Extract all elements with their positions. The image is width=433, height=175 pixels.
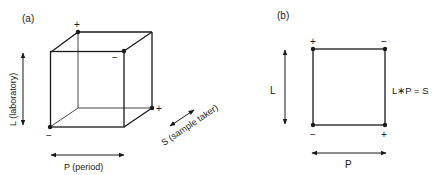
cube-vertex-dots bbox=[48, 30, 154, 129]
vertex-dot bbox=[383, 123, 387, 127]
sign-back-bottom-right: + bbox=[156, 103, 162, 114]
sign-bottom-left: − bbox=[310, 129, 316, 140]
sign-back-top-left: + bbox=[74, 19, 80, 30]
vertex-dot bbox=[122, 49, 126, 53]
sign-top-left: + bbox=[310, 36, 316, 47]
sign-bottom-right: + bbox=[381, 129, 387, 140]
axis-p-label: P (period) bbox=[64, 162, 103, 172]
cube-bottom-left-depth-edge bbox=[50, 108, 78, 127]
vertex-dot bbox=[311, 123, 315, 127]
sign-front-top-right: − bbox=[112, 52, 118, 63]
axis-l-label-b: L bbox=[270, 85, 276, 96]
vertex-dot bbox=[76, 30, 80, 34]
panel-b-label: (b) bbox=[277, 10, 289, 21]
square bbox=[313, 49, 385, 125]
panel-a-label: (a) bbox=[22, 13, 34, 24]
cube-top-right-depth-edge bbox=[124, 32, 152, 51]
panel-b: (b) + − − + L P L∗P = S bbox=[270, 10, 429, 170]
axis-p-label-b: P bbox=[345, 159, 352, 170]
square-vertex-dots bbox=[311, 47, 387, 127]
axis-l-label: L (laboratory) bbox=[8, 73, 18, 126]
vertex-dot bbox=[383, 47, 387, 51]
equation-label: L∗P = S bbox=[392, 85, 429, 96]
vertex-dot bbox=[150, 106, 154, 110]
vertex-dot bbox=[48, 125, 52, 129]
vertex-dot bbox=[311, 47, 315, 51]
sign-top-right: − bbox=[381, 36, 387, 47]
sign-front-bottom-left: − bbox=[46, 130, 52, 141]
diagram-canvas: (a) + − + − L (laboratory) P (period bbox=[0, 0, 433, 175]
cube-bottom-right-depth-edge bbox=[124, 108, 152, 127]
cube-top-left-depth-edge bbox=[51, 32, 78, 52]
cube bbox=[50, 32, 152, 127]
axis-s-label: S (sample taker) bbox=[160, 102, 220, 147]
panel-a: (a) + − + − L (laboratory) P (period bbox=[8, 13, 220, 172]
